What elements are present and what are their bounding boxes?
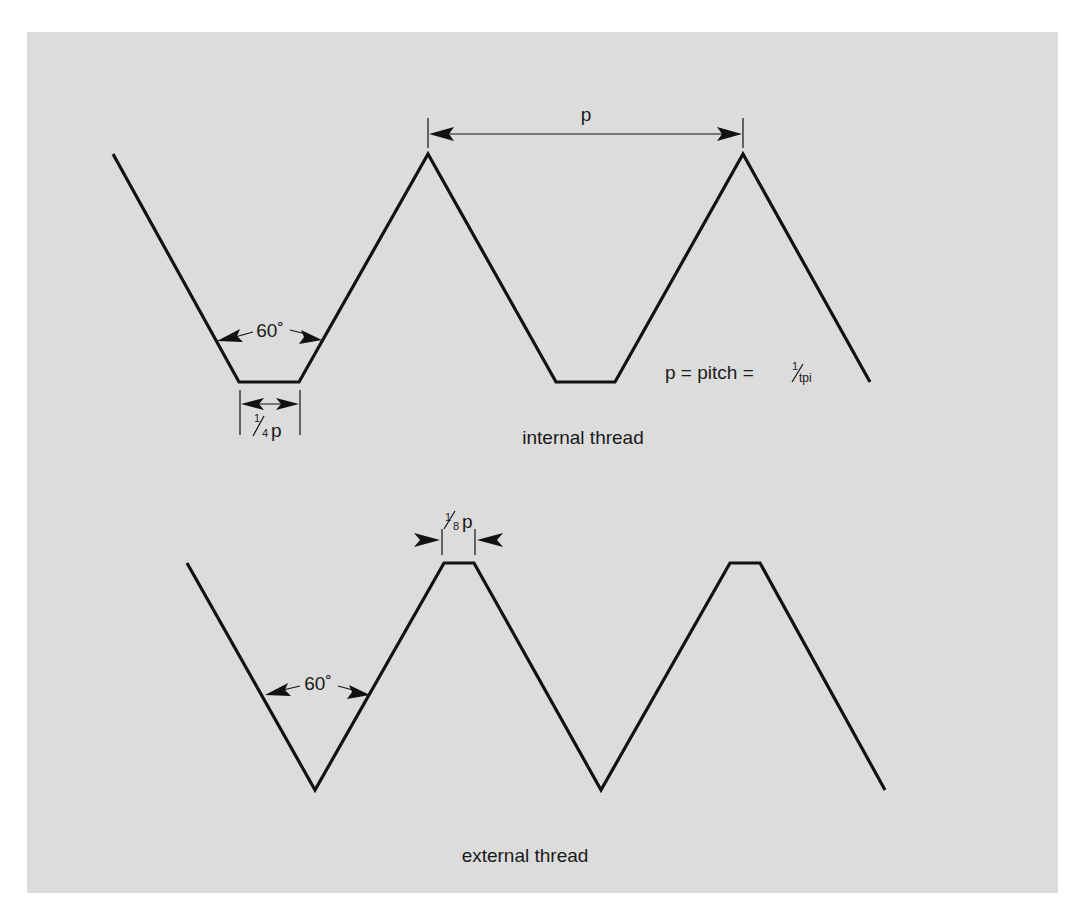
internal-angle-label: 60˚: [256, 320, 283, 341]
fraction-denominator: 4: [262, 427, 268, 439]
internal-thread-caption: internal thread: [522, 427, 643, 448]
internal-thread-profile: [113, 154, 870, 382]
quarter-p-label: 1 4 p: [253, 412, 282, 441]
external-thread-caption: external thread: [462, 845, 589, 866]
pitch-label: p: [581, 104, 592, 125]
internal-thread-group: p 60˚ 1 4 p p = pitch = 1 tpi internal t…: [113, 104, 870, 448]
eighth-p-label: 1 8 p: [444, 511, 473, 532]
arrow-right-icon: [414, 533, 440, 547]
external-thread-group: 1 8 p 60˚ external thread: [187, 511, 885, 866]
formula-numerator: 1: [792, 360, 798, 372]
fraction-numerator: 1: [254, 412, 260, 424]
fraction-denominator: 8: [453, 520, 459, 532]
external-thread-profile: [187, 563, 885, 790]
thread-diagram: p 60˚ 1 4 p p = pitch = 1 tpi internal t…: [0, 0, 1087, 910]
formula-lhs: p = pitch =: [665, 362, 759, 383]
fraction-variable: p: [271, 420, 282, 441]
pitch-formula: p = pitch = 1 tpi: [665, 360, 812, 385]
arrow-left-icon: [477, 533, 503, 547]
arrow-right-icon: [299, 330, 322, 344]
fraction-numerator: 1: [445, 511, 451, 523]
external-angle-label: 60˚: [304, 673, 331, 694]
fraction-variable: p: [462, 511, 473, 532]
formula-denominator: tpi: [799, 371, 812, 385]
